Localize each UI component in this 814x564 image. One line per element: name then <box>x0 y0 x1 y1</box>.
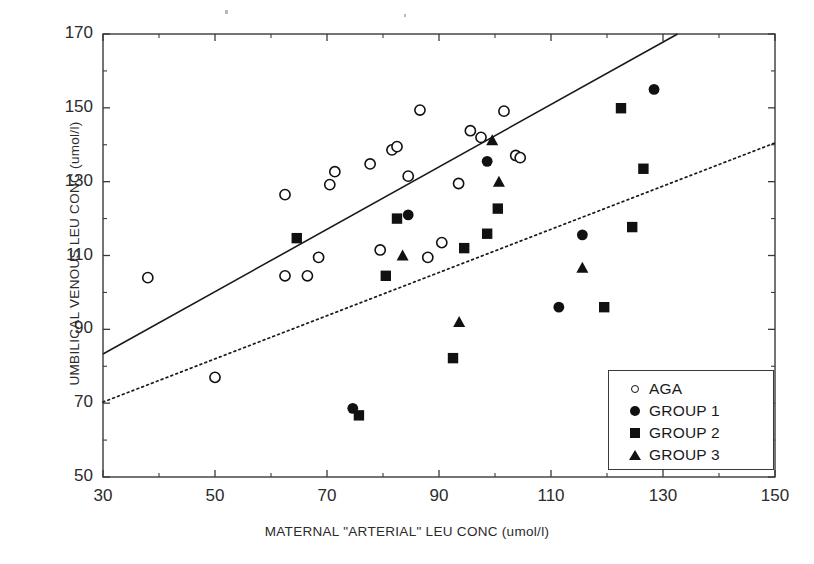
data-point-group-1 <box>553 302 564 313</box>
legend-label: GROUP 2 <box>649 424 720 442</box>
y-tick-label: 90 <box>51 318 93 338</box>
data-point-group-1 <box>403 209 414 220</box>
data-point-aga <box>515 153 525 163</box>
data-point-aga <box>415 105 425 115</box>
data-point-aga <box>375 245 385 255</box>
x-tick-label: 90 <box>409 486 469 506</box>
open-circle-icon <box>621 385 649 393</box>
scatter-plot-figure: MATERNAL "ARTERIAL" LEU CONC (umol/l) UM… <box>0 0 814 564</box>
data-point-group-3 <box>397 250 409 261</box>
plot-canvas <box>0 0 814 564</box>
scan-speck <box>225 10 228 14</box>
legend-label: GROUP 1 <box>649 402 720 420</box>
data-point-aga <box>403 171 413 181</box>
x-tick-label: 30 <box>73 486 133 506</box>
data-points <box>143 84 660 421</box>
legend-item-group-3: GROUP 3 <box>609 444 773 466</box>
x-tick-label: 50 <box>185 486 245 506</box>
x-tick-label: 70 <box>297 486 357 506</box>
data-point-aga <box>454 178 464 188</box>
data-point-aga <box>280 271 290 281</box>
data-point-group-2 <box>354 410 364 420</box>
legend-label: AGA <box>649 380 682 398</box>
legend-box: AGA GROUP 1 GROUP 2 GROUP 3 <box>608 370 774 470</box>
data-point-aga <box>465 126 475 136</box>
x-tick-label: 110 <box>521 486 581 506</box>
y-tick-label: 150 <box>51 97 93 117</box>
data-point-aga <box>437 237 447 247</box>
data-point-group-2 <box>381 271 391 281</box>
legend-label: GROUP 3 <box>649 446 720 464</box>
regression-lines <box>103 34 775 402</box>
filled-triangle-icon <box>621 450 649 460</box>
data-point-aga <box>280 189 290 199</box>
data-point-aga <box>210 372 220 382</box>
data-point-aga <box>325 180 335 190</box>
data-point-group-1 <box>649 84 660 95</box>
x-axis-label: MATERNAL "ARTERIAL" LEU CONC (umol/l) <box>0 524 814 539</box>
y-tick-label: 130 <box>51 171 93 191</box>
legend-item-group-1: GROUP 1 <box>609 400 773 422</box>
data-point-group-1 <box>577 229 588 240</box>
data-point-group-2 <box>459 243 469 253</box>
dotted-regression-line <box>103 143 775 402</box>
solid-regression-line <box>103 34 678 354</box>
x-tick-label: 130 <box>633 486 693 506</box>
data-point-group-2 <box>482 229 492 239</box>
data-point-aga <box>314 252 324 262</box>
data-point-group-2 <box>292 233 302 243</box>
legend-item-aga: AGA <box>609 378 773 400</box>
data-point-aga <box>143 273 153 283</box>
data-point-group-2 <box>493 203 503 213</box>
data-point-aga <box>302 271 312 281</box>
data-point-aga <box>365 159 375 169</box>
filled-square-icon <box>621 428 649 438</box>
y-tick-label: 170 <box>51 23 93 43</box>
data-point-aga <box>499 106 509 116</box>
x-tick-label: 150 <box>745 486 805 506</box>
data-point-aga <box>392 141 402 151</box>
y-tick-label: 70 <box>51 392 93 412</box>
y-tick-label: 110 <box>51 245 93 265</box>
data-point-group-2 <box>616 103 626 113</box>
scan-speck-2 <box>404 14 406 17</box>
data-point-aga <box>330 167 340 177</box>
data-point-group-3 <box>576 262 588 273</box>
data-point-group-2 <box>627 222 637 232</box>
data-point-group-2 <box>392 213 402 223</box>
data-point-aga <box>476 132 486 142</box>
data-point-group-2 <box>599 302 609 312</box>
y-tick-label: 50 <box>51 466 93 486</box>
data-point-group-2 <box>448 353 458 363</box>
data-point-group-3 <box>453 316 465 327</box>
data-point-aga <box>423 252 433 262</box>
legend-item-group-2: GROUP 2 <box>609 422 773 444</box>
data-point-group-1 <box>482 156 493 167</box>
filled-circle-icon <box>621 406 649 416</box>
data-point-group-3 <box>493 176 505 187</box>
data-point-group-2 <box>638 164 648 174</box>
